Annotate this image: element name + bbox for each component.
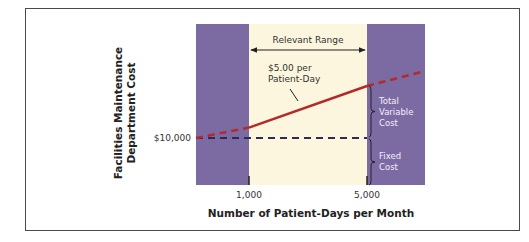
slope-annotation-line2: Patient-Day (268, 74, 321, 84)
x-tick-label-1000: 1,000 (236, 190, 262, 200)
variable-cost-label-line2: Variable (379, 107, 413, 117)
fixed-cost-label-line2: Cost (379, 162, 399, 172)
y-tick-label-10000: $10,000 (154, 133, 191, 143)
slope-annotation-line1: $5.00 per (268, 63, 312, 73)
x-tick-label-5000: 5,000 (354, 190, 380, 200)
variable-cost-label-line1: Total (378, 96, 399, 106)
fixed-cost-label-line1: Fixed (379, 151, 401, 161)
variable-cost-label-line3: Cost (379, 118, 399, 128)
y-axis-label-line2: Department Cost (125, 62, 137, 163)
y-axis-label-line1: Facilities Maintenance (112, 47, 124, 179)
relevant-range-band (249, 24, 367, 185)
outside-range-band-left (196, 24, 249, 185)
chart: Relevant Range $5.00 per Patient-Day Tot… (0, 0, 529, 242)
x-axis-label: Number of Patient-Days per Month (208, 207, 415, 219)
relevant-range-label: Relevant Range (273, 35, 344, 45)
